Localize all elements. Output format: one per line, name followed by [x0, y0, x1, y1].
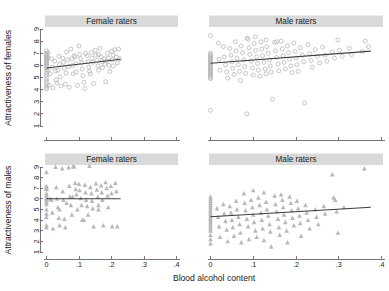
- data-point-triangle: [272, 193, 277, 197]
- plot-canvas: Female ratersMale ratersFemale ratersMal…: [0, 0, 389, 291]
- data-point-circle: [273, 49, 277, 53]
- data-point-circle: [288, 57, 292, 61]
- data-point-triangle: [253, 228, 258, 232]
- data-point-circle: [73, 55, 77, 59]
- data-point-circle: [248, 52, 252, 56]
- data-point-triangle: [85, 204, 90, 208]
- data-point-circle: [87, 65, 91, 69]
- data-point-triangle: [306, 218, 311, 222]
- data-point-triangle: [262, 190, 267, 194]
- y-tick-label: 8: [32, 176, 41, 180]
- data-point-circle: [245, 112, 249, 116]
- x-axis-title: Blood alcohol content: [173, 273, 256, 283]
- data-point-triangle: [268, 229, 273, 233]
- data-point-triangle: [264, 200, 269, 204]
- data-point-triangle: [44, 207, 49, 211]
- data-point-triangle: [63, 225, 68, 229]
- data-point-circle: [63, 82, 67, 86]
- y-tick-label: 2: [32, 112, 41, 116]
- data-point-triangle: [267, 222, 272, 226]
- data-point-triangle: [57, 223, 62, 227]
- data-point-triangle: [330, 172, 335, 176]
- data-point-circle: [285, 44, 289, 48]
- data-point-circle: [250, 66, 254, 70]
- data-point-triangle: [115, 224, 120, 228]
- data-point-circle: [231, 66, 235, 70]
- data-point-circle: [96, 64, 100, 68]
- data-point-circle: [82, 80, 86, 84]
- data-point-circle: [309, 59, 313, 63]
- data-point-triangle: [84, 197, 89, 201]
- data-point-triangle: [242, 191, 247, 195]
- data-point-triangle: [245, 217, 250, 221]
- data-point-circle: [72, 54, 76, 58]
- y-tick-label: 3: [32, 100, 41, 104]
- data-point-triangle: [105, 193, 110, 197]
- panel-strip-label-bottom-left: Female raters: [86, 155, 137, 164]
- data-point-circle: [232, 72, 236, 76]
- data-point-circle: [48, 72, 52, 76]
- data-point-circle: [280, 47, 284, 51]
- data-point-triangle: [208, 237, 213, 241]
- data-point-triangle: [44, 170, 49, 174]
- data-point-triangle: [295, 199, 300, 203]
- data-point-circle: [336, 38, 340, 42]
- data-point-circle: [79, 57, 83, 61]
- data-point-circle: [233, 40, 237, 44]
- data-point-triangle: [99, 190, 104, 194]
- data-point-triangle: [262, 238, 267, 242]
- data-point-triangle: [96, 194, 101, 198]
- data-point-triangle: [283, 220, 288, 224]
- data-point-circle: [266, 51, 270, 55]
- data-point-triangle: [296, 206, 301, 210]
- y-tick-label: 6: [32, 63, 41, 67]
- data-point-circle: [292, 41, 296, 45]
- data-point-triangle: [362, 166, 367, 170]
- y-axis-title-top: Attractiveness of females: [3, 30, 13, 126]
- data-point-triangle: [106, 205, 111, 209]
- y-tick-label: 1: [32, 250, 41, 254]
- data-point-triangle: [73, 187, 78, 191]
- data-point-circle: [243, 65, 247, 69]
- data-point-circle: [238, 79, 242, 83]
- data-point-circle: [247, 46, 251, 50]
- data-point-triangle: [277, 225, 282, 229]
- y-tick-label: 7: [32, 51, 41, 55]
- data-point-circle: [78, 52, 82, 56]
- data-point-triangle: [234, 199, 239, 203]
- data-point-triangle: [292, 223, 297, 227]
- data-point-circle: [318, 61, 322, 65]
- data-point-circle: [252, 42, 256, 46]
- data-point-circle: [310, 65, 314, 69]
- data-point-triangle: [284, 228, 289, 232]
- data-point-circle: [347, 46, 351, 50]
- data-point-triangle: [336, 230, 341, 234]
- data-point-circle: [92, 82, 96, 86]
- data-point-triangle: [281, 205, 286, 209]
- data-point-circle: [118, 57, 122, 61]
- data-point-triangle: [260, 226, 265, 230]
- data-point-circle: [296, 69, 300, 73]
- data-point-triangle: [114, 189, 119, 193]
- data-point-circle: [83, 86, 87, 90]
- data-point-circle: [325, 59, 329, 63]
- data-point-triangle: [69, 203, 74, 207]
- panel-bottom-right: [208, 166, 371, 249]
- data-point-circle: [53, 59, 57, 63]
- data-point-triangle: [223, 219, 228, 223]
- data-point-triangle: [280, 197, 285, 201]
- data-point-triangle: [246, 224, 251, 228]
- data-point-circle: [69, 47, 73, 51]
- data-point-circle: [290, 71, 294, 75]
- data-point-circle: [268, 64, 272, 68]
- data-point-circle: [93, 48, 97, 52]
- data-point-circle: [221, 45, 225, 49]
- data-point-triangle: [282, 212, 287, 216]
- data-point-circle: [223, 63, 227, 67]
- x-tick-label: .4: [174, 260, 180, 269]
- data-point-circle: [293, 49, 297, 53]
- data-point-circle: [218, 68, 222, 72]
- y-tick-label: 9: [32, 165, 41, 169]
- data-point-circle: [295, 63, 299, 67]
- data-point-triangle: [256, 195, 261, 199]
